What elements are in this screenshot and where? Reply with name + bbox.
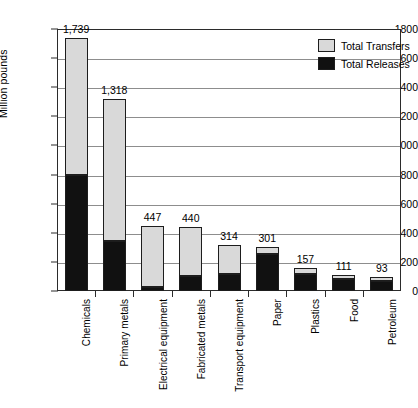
legend-item-total-releases: Total Releases xyxy=(318,56,410,71)
bar-fabricated-metals: 440 xyxy=(179,227,202,291)
bar-total-label: 1,318 xyxy=(101,84,127,96)
bar-petroleum: 93 xyxy=(370,277,393,291)
x-category-label: Primary metals xyxy=(119,299,130,366)
bar-segment-transfers xyxy=(256,247,279,254)
bar-segment-releases xyxy=(179,276,202,291)
bar-total-label: 111 xyxy=(336,260,352,272)
bar-paper: 301 xyxy=(256,247,279,291)
bar-segment-transfers xyxy=(218,245,241,274)
x-tick-mark xyxy=(325,291,326,297)
bar-transport-equipment: 314 xyxy=(218,245,241,291)
bar-segment-transfers xyxy=(65,38,88,175)
x-category-label: Fabricated metals xyxy=(196,299,207,379)
legend-item-total-transfers: Total Transfers xyxy=(318,38,410,53)
y-axis-title: Million pounds xyxy=(0,0,9,118)
x-category-label: Transport equipment xyxy=(234,299,245,392)
bar-segment-transfers xyxy=(179,227,202,276)
bar-total-label: 314 xyxy=(220,230,238,242)
bar-chemicals: 1,739 xyxy=(65,38,88,291)
x-tick-mark xyxy=(248,291,249,297)
x-category-label: Plastics xyxy=(310,299,321,334)
bar-primary-metals: 1,318 xyxy=(103,99,126,291)
bar-segment-releases xyxy=(65,175,88,291)
legend-label-transfers: Total Transfers xyxy=(341,40,410,52)
x-category-label: Electrical equipment xyxy=(158,299,169,390)
bar-total-label: 447 xyxy=(144,211,162,223)
bar-total-label: 157 xyxy=(297,253,315,265)
x-tick-mark xyxy=(363,291,364,297)
bar-segment-releases xyxy=(141,287,164,291)
bar-segment-releases xyxy=(370,281,393,291)
bar-segment-transfers xyxy=(141,226,164,287)
chart-legend: Total Transfers Total Releases xyxy=(318,38,410,74)
x-category-label: Food xyxy=(349,299,360,322)
x-category-label: Petroleum xyxy=(387,299,398,345)
bar-food: 111 xyxy=(332,275,355,291)
bar-segment-releases xyxy=(256,254,279,291)
legend-label-releases: Total Releases xyxy=(341,58,410,70)
bar-total-label: 301 xyxy=(258,232,276,244)
bar-segment-releases xyxy=(294,274,317,291)
bar-electrical-equipment: 447 xyxy=(141,226,164,291)
bar-segment-releases xyxy=(103,241,126,291)
legend-swatch-transfers xyxy=(318,39,335,52)
x-category-label: Chemicals xyxy=(81,299,92,346)
x-tick-mark xyxy=(172,291,173,297)
x-tick-mark xyxy=(95,291,96,297)
bar-segment-releases xyxy=(332,279,355,291)
x-tick-mark xyxy=(286,291,287,297)
bar-segment-transfers xyxy=(103,99,126,241)
bar-segment-releases xyxy=(218,274,241,291)
x-tick-mark xyxy=(210,291,211,297)
bar-total-label: 440 xyxy=(182,212,200,224)
legend-swatch-releases xyxy=(318,57,335,70)
bar-plastics: 157 xyxy=(294,268,317,291)
x-category-label: Paper xyxy=(272,299,283,326)
bar-total-label: 93 xyxy=(376,262,388,274)
x-tick-mark xyxy=(133,291,134,297)
bar-total-label: 1,739 xyxy=(63,23,89,35)
stacked-bar-chart: Million pounds 0200400600800100012001400… xyxy=(0,0,418,408)
